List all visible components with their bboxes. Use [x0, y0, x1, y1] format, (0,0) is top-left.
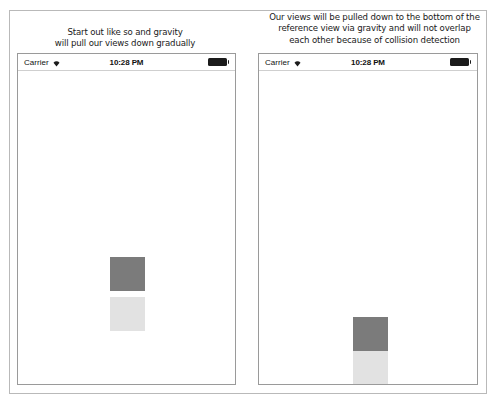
caption-right-line-3: each other because of collision detectio…: [250, 35, 499, 46]
dark-square-left[interactable]: [110, 257, 145, 291]
caption-right-line-2: reference view via gravity and will not …: [250, 23, 499, 34]
battery-full-icon: [208, 58, 229, 66]
carrier-label: Carrier: [265, 58, 290, 67]
caption-left-line-2: will pull our views down gradually: [0, 38, 250, 49]
panel-right: Our views will be pulled down to the bot…: [250, 0, 499, 406]
status-bar-left-group: Carrier: [265, 53, 302, 71]
status-bar-left-group: Carrier: [24, 53, 61, 71]
phone-screen-left: [18, 71, 235, 384]
status-bar-left: Carrier 10:28 PM: [18, 54, 235, 71]
wifi-icon: [293, 53, 302, 71]
caption-left: Start out like so and gravity will pull …: [0, 27, 250, 50]
light-square-left[interactable]: [110, 297, 145, 331]
phone-mockup-left: Carrier 10:28 PM: [17, 53, 236, 385]
dark-square-right[interactable]: [353, 317, 388, 351]
phone-screen-right: [259, 71, 477, 384]
panel-left: Start out like so and gravity will pull …: [0, 0, 250, 406]
caption-right-line-1: Our views will be pulled down to the bot…: [250, 12, 499, 23]
carrier-label: Carrier: [24, 58, 49, 67]
wifi-icon: [52, 53, 61, 71]
battery-full-icon: [450, 58, 471, 66]
caption-right: Our views will be pulled down to the bot…: [250, 12, 499, 46]
status-bar-right: Carrier 10:28 PM: [259, 54, 477, 71]
caption-left-line-1: Start out like so and gravity: [0, 27, 250, 38]
phone-mockup-right: Carrier 10:28 PM: [258, 53, 478, 385]
light-square-right[interactable]: [353, 351, 388, 384]
